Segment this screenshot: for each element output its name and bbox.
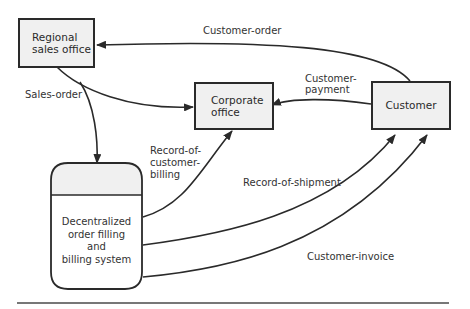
regional-sales-office-box: Regional sales office [18,18,95,68]
store-label-4: billing system [51,254,142,267]
corporate-office-box: Corporate office [194,82,274,130]
label-customer-payment-2: payment [305,84,350,96]
arrow-sales-order [80,82,97,163]
corporate-label-2: office [211,106,264,119]
label-record-billing-2: customer- [150,157,200,169]
store-top-fill [51,163,142,195]
arrow-customer-payment [272,100,371,105]
store-label-1: Decentralized [51,216,142,229]
label-record-billing-3: billing [150,169,180,181]
label-customer-invoice: Customer-invoice [307,251,394,263]
label-record-shipment: Record-of-shipment [243,177,341,189]
store-label-2: order filling [51,229,142,242]
regional-label-1: Regional [32,31,91,44]
regional-label-2: sales office [32,43,91,56]
customer-box: Customer [371,81,451,130]
label-customer-order: Customer-order [203,25,281,37]
customer-label: Customer [385,99,436,112]
store-label-3: and [51,241,142,254]
arrow-regional-to-corporate [57,67,193,107]
label-record-billing-1: Record-of- [150,145,201,157]
arrow-customer-order [97,43,410,81]
label-sales-order: Sales-order [25,89,82,101]
store-label: Decentralized order filling and billing … [51,216,142,266]
corporate-label-1: Corporate [211,94,264,107]
